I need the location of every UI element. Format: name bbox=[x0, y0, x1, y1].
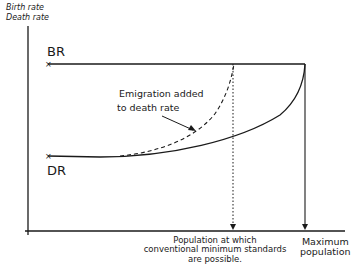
annotation-arrow bbox=[162, 116, 193, 130]
max-pop-label: Maximum population bbox=[300, 237, 351, 258]
y-axis-title-line2: Death rate bbox=[6, 14, 49, 22]
max-pop-arrowhead bbox=[302, 224, 308, 230]
dr-label: DR bbox=[47, 164, 66, 177]
min-standards-line3: are possible. bbox=[125, 255, 305, 264]
br-start-marker: × bbox=[45, 60, 52, 69]
br-label: BR bbox=[47, 45, 65, 58]
dr-start-marker: × bbox=[45, 152, 52, 161]
annotation-line2: to death rate bbox=[117, 103, 179, 113]
max-pop-line2: population bbox=[300, 247, 351, 257]
y-axis-title-line1: Birth rate bbox=[6, 4, 44, 12]
min-standards-arrowhead bbox=[230, 224, 236, 230]
min-standards-label: Population at which conventional minimum… bbox=[125, 236, 305, 264]
annotation-line1: Emigration added bbox=[119, 89, 204, 99]
